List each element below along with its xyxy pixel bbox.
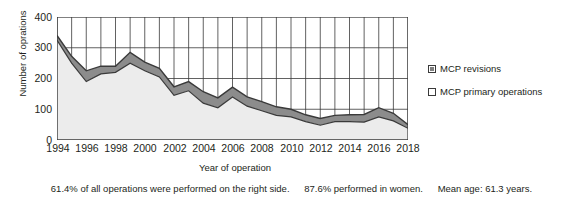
footnote-right-side: 61.4% of all operations were performed o… (51, 183, 290, 194)
plot-area (57, 17, 408, 140)
legend-label-revisions: MCP revisions (440, 64, 501, 74)
chart-legend: MCP revisions MCP primary operations (428, 64, 542, 110)
y-tick-200: 200 (24, 73, 52, 83)
area-chart-svg (57, 17, 408, 140)
legend-label-primary: MCP primary operations (440, 87, 542, 97)
y-tick-300: 300 (24, 42, 52, 52)
revisions-swatch-icon (428, 65, 436, 73)
y-tick-400: 400 (24, 12, 52, 22)
legend-item-revisions: MCP revisions (428, 64, 542, 74)
x-axis-title: Year of operation (140, 162, 330, 173)
x-tick-2018: 2018 (388, 143, 428, 154)
primary-swatch-icon (428, 88, 436, 96)
footnote-mean-age: Mean age: 61.3 years. (438, 183, 533, 194)
legend-item-primary: MCP primary operations (428, 87, 542, 97)
footnote-women: 87.6% performed in women. (304, 183, 423, 194)
chart-figure: Number of oprations 400 300 200 100 0 19… (0, 0, 583, 216)
figure-footnote: 61.4% of all operations were performed o… (0, 183, 583, 194)
y-tick-100: 100 (24, 104, 52, 114)
